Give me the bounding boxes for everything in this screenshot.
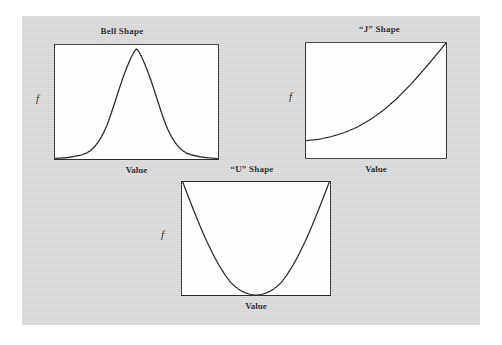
axis-y-label-j: f [289,90,292,102]
u-curve-svg [182,182,330,295]
axis-y-label-u: f [161,228,164,240]
j-curve-path [306,43,446,141]
plot-area-bell [54,44,219,160]
axis-y-label-bell: f [36,92,39,104]
panel-title-j: “J” Shape [292,24,467,34]
plot-area-u [181,181,331,296]
panel-bell-shape: Bell Shape f Value [27,26,227,186]
figure-page: Bell Shape f Value “J” Shape f Value “U”… [22,16,480,325]
bell-curve-svg [55,45,218,159]
j-curve-svg [306,43,446,158]
plot-area-j [305,42,447,159]
panel-title-u: “U” Shape [172,164,332,174]
panel-j-shape: “J” Shape f Value [282,24,477,184]
u-curve-path [183,182,330,295]
axis-x-label-u: Value [181,301,331,311]
bell-curve-path [55,49,218,159]
panel-title-bell: Bell Shape [32,26,212,36]
panel-u-shape: “U” Shape f Value [152,164,352,324]
